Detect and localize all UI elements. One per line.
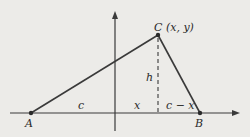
label-h: h bbox=[146, 71, 153, 84]
point-A bbox=[29, 111, 33, 115]
label-c-minus-x: c − x bbox=[166, 99, 195, 112]
label-C: C (x, y) bbox=[154, 21, 194, 34]
point-B bbox=[198, 111, 202, 115]
label-c: c bbox=[78, 99, 84, 112]
label-A: A bbox=[24, 117, 33, 130]
triangle-diagram: A B C (x, y) c x c − x h bbox=[0, 0, 250, 137]
label-B: B bbox=[194, 117, 203, 130]
label-x: x bbox=[134, 99, 141, 112]
y-axis-arrow-icon bbox=[112, 11, 118, 19]
diagram-canvas: A B C (x, y) c x c − x h bbox=[0, 0, 250, 137]
x-axis-arrow-icon bbox=[232, 110, 240, 116]
